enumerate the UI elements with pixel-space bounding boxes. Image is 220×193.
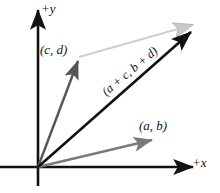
x-axis-label: +x — [192, 155, 207, 171]
y-axis-label: +y — [41, 1, 56, 17]
vector-ab-translated — [79, 25, 192, 57]
vector-cd — [38, 61, 78, 167]
vector-cd-label: (c, d) — [40, 42, 67, 58]
vector-ab-label: (a, b) — [139, 118, 167, 134]
vector-addition-figure: +y +x (c, d) (a, b) (a + c, b + d) — [0, 0, 220, 193]
